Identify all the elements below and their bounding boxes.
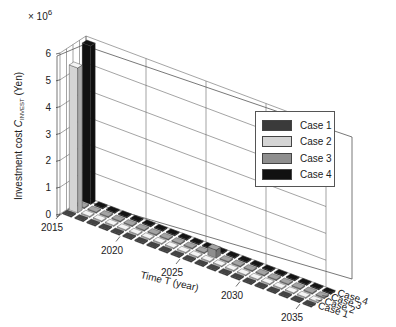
y-tick-label: 6 (45, 48, 51, 59)
y-tick-label: 3 (45, 129, 51, 140)
legend-label: Case 2 (300, 136, 332, 147)
y-tick-label: 2 (45, 155, 51, 166)
y-tick-label: 4 (45, 102, 51, 113)
legend-label: Case 1 (300, 120, 332, 131)
y-axis-label: Investment cost CINVEST (Yen) (13, 72, 25, 200)
legend-swatch-case-3 (262, 153, 292, 164)
legend-label: Case 3 (300, 153, 332, 164)
bar-chart-3d: 0123456 20152020202520302035 Case 1Case … (0, 0, 396, 327)
y-tick-label: 5 (45, 75, 51, 86)
x-tick-label: 2035 (281, 312, 304, 323)
legend-swatch-case-1 (262, 120, 292, 131)
depth-axis-ticks: Case 1Case 2Case 3Case 4 (309, 287, 370, 320)
legend-swatch-case-2 (262, 136, 292, 147)
legend-swatch-case-4 (262, 169, 292, 180)
legend-item-case-3: Case 3 (262, 150, 334, 167)
bars (69, 40, 220, 258)
y-multiplier: × 106 (28, 8, 53, 22)
x-tick-label: 2030 (221, 290, 244, 301)
x-tick-label: 2015 (41, 222, 64, 233)
y-tick-label: 0 (45, 209, 51, 220)
legend-item-case-2: Case 2 (262, 134, 334, 151)
legend: Case 1 Case 2 Case 3 Case 4 (255, 111, 335, 187)
legend-label: Case 4 (300, 169, 332, 180)
x-tick-label: 2020 (101, 245, 124, 256)
legend-item-case-1: Case 1 (262, 117, 334, 134)
y-tick-label: 1 (45, 182, 51, 193)
legend-item-case-4: Case 4 (262, 167, 334, 184)
y-axis-ticks: 0123456 (45, 48, 60, 220)
